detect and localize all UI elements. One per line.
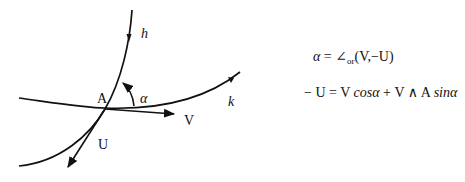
- angle-alpha-arc: [123, 83, 134, 106]
- label-k: k: [228, 95, 234, 109]
- curve-h-arrow-icon: [127, 34, 132, 42]
- formula1-subscript: or: [347, 56, 355, 66]
- label-alpha: α: [140, 92, 147, 106]
- formula2-sin: sin: [434, 85, 450, 100]
- label-u: U: [98, 138, 108, 152]
- formula2-cos: cos: [354, 85, 373, 100]
- formula2-alpha1: α: [372, 85, 379, 100]
- formula2-mid: + V ∧ A: [380, 85, 434, 100]
- formula1-args: (V,−U): [355, 49, 394, 64]
- label-a: A: [97, 92, 107, 106]
- label-h: h: [141, 27, 148, 41]
- label-v: V: [184, 114, 194, 128]
- vector-v: [105, 109, 174, 114]
- formula2-alpha2: α: [450, 85, 457, 100]
- formula2-lhs: − U = V: [304, 85, 354, 100]
- formula-u-decomposition: − U = V cosα + V ∧ A sinα: [304, 86, 457, 100]
- curve-h: [19, 10, 132, 166]
- formula-angle-definition: α = ∠or(V,−U): [313, 50, 394, 66]
- formula1-eq-angle: = ∠: [320, 49, 347, 64]
